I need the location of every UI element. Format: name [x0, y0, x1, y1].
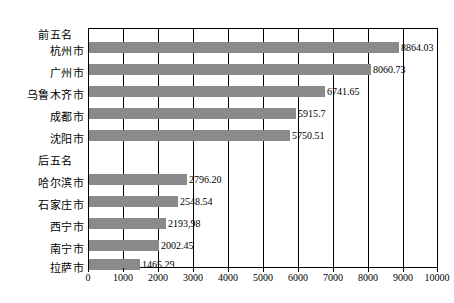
bar-value-label: 8864.03	[401, 42, 434, 53]
category-label: 成都市	[8, 108, 84, 124]
bar-value-label: 8060.73	[373, 64, 406, 75]
x-tick-label: 3000	[178, 272, 208, 283]
bar	[89, 196, 178, 207]
x-tick-label: 1000	[108, 272, 138, 283]
x-tick-label: 6000	[283, 272, 313, 283]
bar-chart: 前五名 杭州市 8864.03 广州市 8060.73 乌鲁木齐市 6741.6…	[0, 0, 454, 303]
bar	[89, 130, 290, 141]
category-label: 沈阳市	[8, 130, 84, 146]
bar	[89, 240, 159, 251]
x-tick-label: 8000	[353, 272, 383, 283]
category-label: 哈尔滨市	[8, 174, 84, 190]
bar	[89, 108, 296, 119]
x-tick-label: 4000	[213, 272, 243, 283]
bar	[89, 42, 399, 53]
category-label: 广州市	[8, 64, 84, 80]
bar-value-label: 6741.65	[327, 86, 360, 97]
category-label: 杭州市	[8, 42, 84, 58]
bar-value-label: 2193,98	[168, 218, 201, 229]
x-tick-label: 7000	[318, 272, 348, 283]
category-label: 石家庄市	[8, 196, 84, 212]
bar	[89, 259, 140, 270]
x-tick-label: 0	[73, 272, 103, 283]
bar	[89, 218, 166, 229]
bar-value-label: 2002.45	[161, 240, 194, 251]
x-tick-label: 10000	[420, 272, 454, 283]
bar	[89, 174, 187, 185]
category-label: 西宁市	[8, 218, 84, 234]
group-label-top: 前五名	[38, 26, 73, 42]
x-tick-label: 5000	[248, 272, 278, 283]
x-tick-label: 2000	[143, 272, 173, 283]
bar	[89, 86, 325, 97]
bar-value-label: 5915.7	[298, 108, 326, 119]
bar-value-label: 2796.20	[189, 174, 222, 185]
bar-value-label: 5750.51	[292, 130, 325, 141]
bar	[89, 64, 371, 75]
group-label-bottom: 后五名	[38, 152, 73, 168]
category-label: 乌鲁木齐市	[8, 86, 84, 102]
bar-value-label: 2548.54	[180, 196, 213, 207]
x-tick-label: 9000	[388, 272, 418, 283]
category-label: 南宁市	[8, 240, 84, 256]
